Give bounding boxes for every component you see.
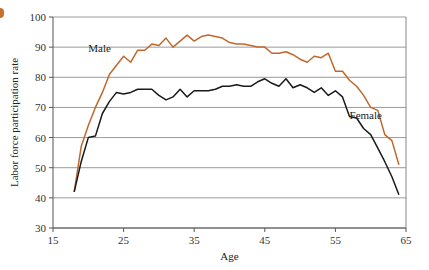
series-label-male: Male	[88, 42, 111, 54]
series-label-female: Female	[350, 109, 382, 121]
y-tick-label: 70	[35, 101, 47, 113]
x-tick-label: 55	[330, 234, 342, 246]
y-tick-label: 50	[35, 162, 47, 174]
x-tick-label: 35	[189, 234, 201, 246]
x-axis-title: Age	[220, 250, 238, 262]
x-tick-label: 45	[259, 234, 271, 246]
series-line-female	[74, 79, 399, 195]
y-tick-label: 80	[35, 71, 47, 83]
line-chart: 30405060708090100152535455565MaleFemaleA…	[0, 0, 429, 270]
x-tick-label: 25	[118, 234, 130, 246]
y-tick-label: 100	[30, 11, 47, 23]
x-tick-label: 65	[401, 234, 413, 246]
y-tick-label: 40	[35, 192, 47, 204]
y-axis-title: Labor force participation rate	[8, 58, 20, 187]
x-tick-label: 15	[48, 234, 60, 246]
y-tick-label: 60	[35, 132, 47, 144]
y-tick-label: 30	[35, 222, 47, 234]
y-tick-label: 90	[35, 41, 47, 53]
